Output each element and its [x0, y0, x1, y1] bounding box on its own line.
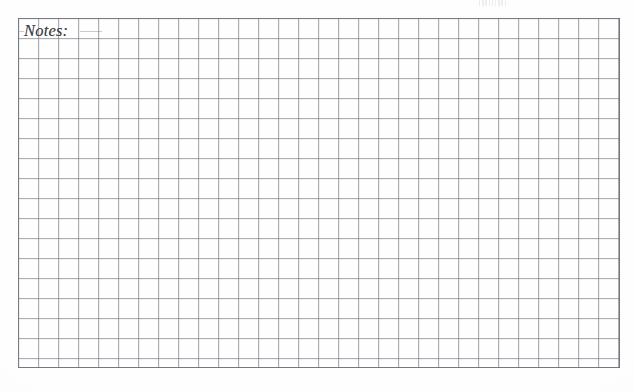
grid-ruling: [18, 18, 620, 368]
scan-edge-artifact-icon: [479, 0, 507, 6]
notes-grid-area[interactable]: Notes:: [18, 18, 620, 368]
notes-page: Notes:: [0, 0, 634, 392]
notes-label: Notes:: [24, 23, 68, 40]
